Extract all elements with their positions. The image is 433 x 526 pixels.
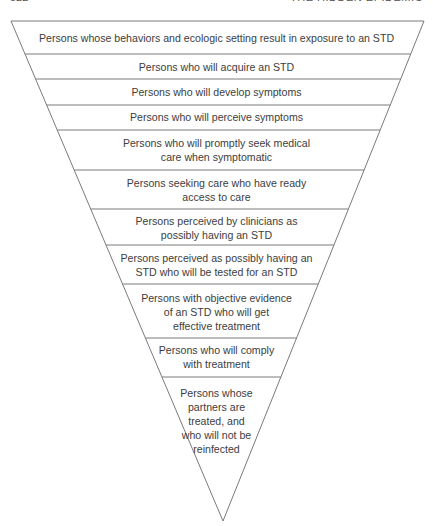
band-label-text: Persons who will comply with treatment [159,343,274,371]
band-label-text: Persons with objective evidence of an ST… [141,291,292,333]
band-access-to-care: Persons seeking care who have ready acce… [0,176,433,204]
band-perceived-by-clinicians: Persons perceived by clinicians as possi… [0,214,433,242]
band-label-text: Persons whose behaviors and ecologic set… [39,31,394,45]
band-develop-symptoms: Persons who will develop symptoms [0,85,433,99]
band-acquire: Persons who will acquire an STD [0,60,433,74]
band-label-text: Persons who will acquire an STD [139,60,294,74]
band-label-text: Persons who will perceive symptoms [130,110,303,124]
band-label-text: Persons who will promptly seek medical c… [123,136,310,164]
band-label-text: Persons perceived as possibly having an … [121,251,313,279]
band-label-text: Persons whose partners are treated, and … [180,386,252,456]
band-perceive-symptoms: Persons who will perceive symptoms [0,110,433,124]
band-label-text: Persons perceived by clinicians as possi… [136,214,298,242]
band-label-text: Persons who will develop symptoms [131,85,301,99]
band-seek-care: Persons who will promptly seek medical c… [0,136,433,164]
band-comply: Persons who will comply with treatment [0,343,433,371]
band-effective-treatment: Persons with objective evidence of an ST… [0,291,433,333]
band-label-text: Persons seeking care who have ready acce… [127,176,307,204]
band-partners-treated: Persons whose partners are treated, and … [0,386,433,456]
band-tested: Persons perceived as possibly having an … [0,251,433,279]
band-exposure: Persons whose behaviors and ecologic set… [0,31,433,45]
